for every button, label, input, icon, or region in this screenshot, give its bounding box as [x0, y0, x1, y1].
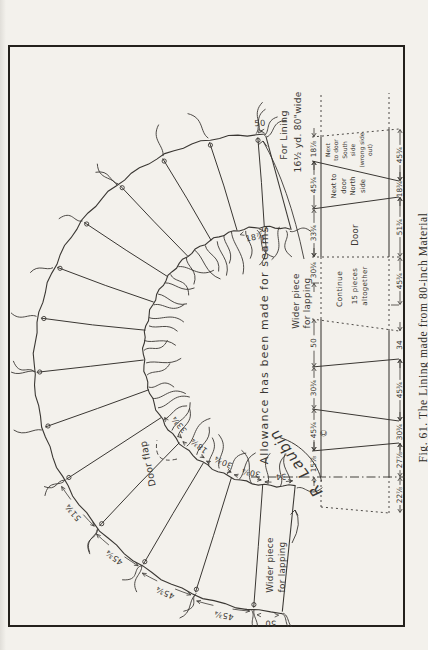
fan-outer-width-dim: 50 [265, 619, 276, 627]
fan-inner-width-dim: 30¾ [213, 454, 234, 470]
lining-note-line2: 16½ yd. 80"wide [293, 91, 303, 172]
strip-bottom-dim: 45¾ [395, 382, 404, 398]
strip-top-dim: 30¾ [309, 262, 318, 278]
lapping-note-door-line2: for lapping [277, 542, 287, 593]
strip-top-dim: 33¾ [309, 225, 318, 241]
strip-north-label-line: door [340, 178, 348, 194]
strip-bottom-dim: 30¾ [395, 424, 404, 440]
strip-south-label-line: side [349, 144, 356, 157]
figure-caption: Fig. 61. The Lining made from 80-inch Ma… [417, 45, 428, 630]
fan-outer-width-dim: 45¾ [154, 584, 176, 601]
strip-bottom-dim: 51¾ [395, 219, 404, 235]
allowance-note: Allowance has been made for seams [258, 226, 271, 465]
strip-top-dim: 50 [309, 338, 318, 348]
strip-north-label-line: Next to [330, 174, 338, 199]
lapping-note-far-line1: Wider piece [291, 273, 301, 328]
lapping-note-door-line1: Wider piece [265, 537, 275, 592]
strip-south-label-line: Next [324, 142, 331, 157]
strip-top-dim: 45¾ [309, 422, 318, 438]
fan-inner-width-dim: 34 [275, 472, 286, 481]
strip-south-label-line: (wrong side [358, 132, 366, 167]
strip-bottom-dim: 45¾ [395, 273, 404, 289]
strip-bottom-dim: 34 [395, 340, 404, 350]
strip-south-label-line: to door [332, 139, 339, 161]
scanned-book-page: 5045¾45¾45¾51¾503430¾30¾18¾33¾18⅞Allowan… [0, 0, 428, 650]
strip-bottom-dim: 18¾ [395, 181, 404, 197]
lining-note-line1: For Lining [278, 110, 289, 160]
strip-bottom-dim: 45¾ [395, 147, 404, 163]
fan-outer-width-dim: 45¾ [213, 609, 234, 622]
strip-top-dim: 15⅞ [309, 456, 318, 472]
lapping-note-far-line2: for lapping [302, 278, 312, 329]
strip-continue-line2: 15 pieces [351, 268, 359, 304]
strip-bottom-dim: 27⅞ [395, 452, 404, 468]
strip-continue-line1: Continue [335, 271, 344, 307]
lining-fan-diagram: 5045¾45¾45¾51¾503430¾30¾18¾33¾18⅞Allowan… [11, 91, 331, 627]
strip-top-dim: 30¾ [309, 380, 318, 396]
drawing-area: 5045¾45¾45¾51¾503430¾30¾18¾33¾18⅞Allowan… [11, 48, 405, 627]
strip-south-label-line: out) [366, 144, 373, 156]
lining-plate-drawing: 5045¾45¾45¾51¾503430¾30¾18¾33¾18⅞Allowan… [11, 48, 405, 627]
strip-north-label-line: side [359, 179, 367, 193]
strip-top-dim: 18⅞ [309, 141, 318, 157]
strip-top-dim: 45¾ [309, 177, 318, 193]
strip-north-label-line: North [349, 176, 357, 195]
figure-caption-text: Fig. 61. The Lining made from 80-inch Ma… [417, 213, 428, 463]
strip-door-label: Door [350, 224, 360, 246]
door-flap-label: Door flap [137, 440, 157, 488]
strip-bottom-dim: 22⅞ [395, 487, 404, 503]
strip-continue-line3: altogether [361, 266, 369, 305]
strip-south-label-line: South [341, 141, 348, 159]
fan-outer-width-dim: 50 [254, 118, 266, 129]
